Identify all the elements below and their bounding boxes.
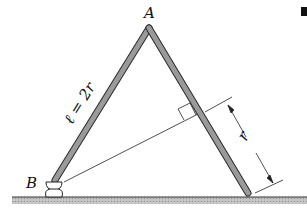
hinge-B <box>46 182 63 197</box>
label-B: B <box>25 174 37 192</box>
label-r: r <box>233 127 254 144</box>
label-A: A <box>142 4 155 22</box>
perpendicular-line <box>64 112 202 182</box>
diagram-canvas: A B ℓ = 2r r <box>0 0 307 213</box>
ground <box>12 197 307 204</box>
corner-mark <box>301 7 307 16</box>
